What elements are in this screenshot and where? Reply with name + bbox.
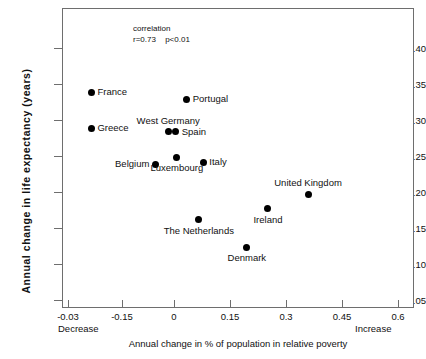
data-point-label: Denmark — [228, 253, 267, 263]
data-point — [200, 159, 207, 166]
data-point — [172, 128, 179, 135]
data-point-label: Belgium — [115, 159, 149, 169]
y-axis-title: Annual change in life expectancy (years) — [20, 51, 32, 311]
data-point — [88, 89, 95, 96]
x-tick-mark — [122, 300, 123, 308]
x-tick-label: 0.15 — [210, 312, 250, 322]
data-point — [243, 244, 250, 251]
annotation-p-value: p<0.01 — [165, 35, 190, 44]
x-axis-decrease-label: Decrease — [58, 323, 99, 334]
x-tick-label: 0.45 — [322, 312, 362, 322]
x-axis-increase-label: Increase — [355, 323, 391, 334]
scatter-chart: Annual change in life expectancy (years)… — [0, 0, 426, 359]
data-point — [173, 154, 180, 161]
annotation-title: correlation — [133, 23, 197, 34]
data-point — [183, 96, 190, 103]
x-tick-label: -0.15 — [102, 312, 142, 322]
x-tick-label: 0 — [154, 312, 194, 322]
data-point-label: Greece — [97, 123, 128, 133]
correlation-annotation: correlation r=0.73 p<0.01 — [133, 23, 197, 45]
x-axis-title: Annual change in % of population in rela… — [62, 338, 414, 349]
plot-area: correlation r=0.73 p<0.01 FranceGreecePo… — [62, 8, 414, 308]
data-point — [195, 216, 202, 223]
data-point-label: Portugal — [193, 94, 228, 104]
data-point-label: West Germany — [137, 116, 200, 126]
x-tick-mark — [174, 300, 175, 308]
x-tick-mark — [230, 300, 231, 308]
x-tick-label: 0.6 — [378, 312, 418, 322]
annotation-r-value: r=0.73 — [133, 35, 156, 44]
data-point-label: Italy — [209, 157, 226, 167]
x-tick-mark — [398, 300, 399, 308]
data-point — [88, 125, 95, 132]
data-point — [305, 191, 312, 198]
x-tick-mark — [68, 300, 69, 308]
data-point — [264, 205, 271, 212]
x-tick-mark — [342, 300, 343, 308]
data-point-label: United Kingdom — [274, 178, 342, 188]
data-point-label: France — [97, 87, 127, 97]
data-point — [165, 128, 172, 135]
data-point-label: Luxembourg — [150, 163, 203, 173]
data-point-label: Ireland — [253, 215, 282, 225]
x-tick-label: 0.3 — [266, 312, 306, 322]
x-tick-mark — [286, 300, 287, 308]
data-point-label: The Netherlands — [164, 226, 234, 236]
data-point-label: Spain — [182, 127, 206, 137]
x-tick-label: -0.03 — [48, 312, 88, 322]
